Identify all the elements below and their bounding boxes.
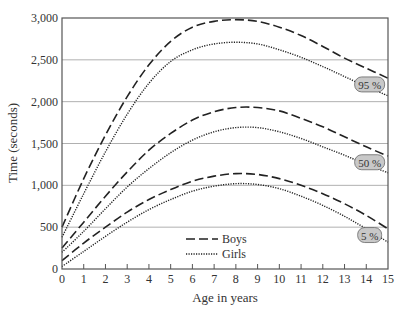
y-tick-label: 500 (40, 220, 58, 234)
x-tick-label: 7 (211, 272, 217, 286)
x-tick-label: 6 (189, 272, 195, 286)
x-tick-label: 14 (360, 272, 372, 286)
x-tick-label: 3 (124, 272, 130, 286)
y-tick-label: 0 (52, 262, 58, 276)
x-tick-label: 1 (81, 272, 87, 286)
x-tick-label: 8 (233, 272, 239, 286)
series-line-boys-95- (62, 20, 388, 227)
x-tick-label: 0 (59, 272, 65, 286)
y-axis-label: Time (seconds) (5, 103, 20, 183)
x-tick-label: 10 (273, 272, 285, 286)
y-tick-label: 2,000 (31, 95, 58, 109)
y-tick-label: 1,000 (31, 178, 58, 192)
y-axis-ticks: 05001,0001,5002,0002,5003,000 (31, 11, 58, 276)
x-tick-label: 12 (317, 272, 329, 286)
percentile-label: 5 % (361, 230, 378, 242)
y-tick-label: 1,500 (31, 137, 58, 151)
x-tick-label: 13 (339, 272, 351, 286)
legend-label-girls: Girls (222, 247, 246, 261)
gridlines (62, 60, 388, 227)
percentile-label: 50 % (358, 157, 381, 169)
x-tick-label: 11 (295, 272, 307, 286)
x-tick-label: 2 (102, 272, 108, 286)
y-tick-label: 2,500 (31, 53, 58, 67)
x-tick-label: 5 (168, 272, 174, 286)
x-tick-label: 15 (382, 272, 394, 286)
x-axis-ticks: 0123456789101112131415 (59, 264, 394, 286)
series-line-girls-95- (62, 42, 388, 237)
y-tick-label: 3,000 (31, 11, 58, 25)
x-tick-label: 4 (146, 272, 152, 286)
legend-label-boys: Boys (222, 232, 247, 246)
percentile-label: 95 % (358, 79, 381, 91)
x-axis-label: Age in years (192, 290, 258, 305)
legend: BoysGirls (186, 232, 247, 261)
x-tick-label: 9 (255, 272, 261, 286)
percentile-growth-chart: 05001,0001,5002,0002,5003,000 0123456789… (0, 0, 403, 313)
